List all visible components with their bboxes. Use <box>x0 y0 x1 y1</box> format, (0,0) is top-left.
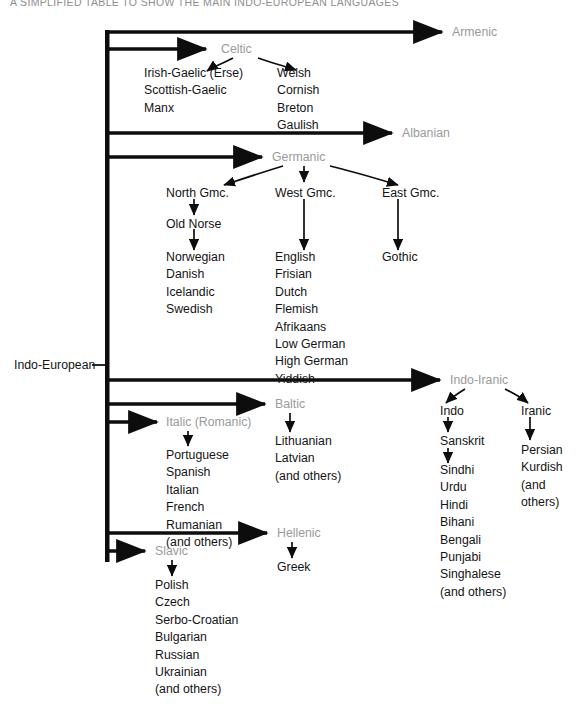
list-item: English <box>275 249 348 266</box>
branch-label-albanian: Albanian <box>402 126 450 140</box>
branch-label-germanic: Germanic <box>272 150 325 164</box>
branch-label-celtic: Celtic <box>221 42 252 56</box>
list-item: Afrikaans <box>275 319 348 336</box>
branch-label-hellenic: Hellenic <box>277 526 321 540</box>
branch-label-indo-iranic: Indo-Iranic <box>450 373 508 387</box>
list-item: Italian <box>166 482 232 499</box>
list-item: Kurdish <box>521 459 563 476</box>
baltic-list: Lithuanian Latvian (and others) <box>275 433 341 485</box>
list-item: (and others) <box>440 584 506 601</box>
list-item: (and others) <box>155 681 238 698</box>
list-item: Urdu <box>440 479 506 496</box>
branch-label-italic: Italic (Romanic) <box>166 415 251 429</box>
list-item: Czech <box>155 594 238 611</box>
list-item: Yiddish <box>275 371 348 388</box>
list-item: Danish <box>166 266 225 283</box>
branch-label-baltic: Baltic <box>275 397 305 411</box>
list-item: Polish <box>155 577 238 594</box>
west-germanic-list: English Frisian Dutch Flemish Afrikaans … <box>275 249 348 388</box>
north-germanic-list: Norwegian Danish Icelandic Swedish <box>166 249 225 319</box>
iranic-list: Persian Kurdish (and others) <box>521 442 563 512</box>
page-title: A SIMPLIFIED TABLE TO SHOW THE MAIN INDO… <box>10 0 399 8</box>
celtic-right-group: Welsh Cornish Breton Gaulish <box>277 65 319 135</box>
list-item: Dutch <box>275 284 348 301</box>
list-item: (and others) <box>275 468 341 485</box>
list-item: Welsh <box>277 65 319 82</box>
list-item: Serbo-Croatian <box>155 612 238 629</box>
list-item: Bengali <box>440 532 506 549</box>
list-item: Hindi <box>440 497 506 514</box>
list-item: Persian <box>521 442 563 459</box>
node-west-germanic: West Gmc. <box>275 186 336 200</box>
language-family-diagram: A SIMPLIFIED TABLE TO SHOW THE MAIN INDO… <box>0 0 584 709</box>
list-item: Ukrainian <box>155 664 238 681</box>
list-item: Greek <box>277 559 311 576</box>
list-item: Flemish <box>275 301 348 318</box>
list-item: High German <box>275 353 348 370</box>
list-item: Low German <box>275 336 348 353</box>
list-item: (and <box>521 477 563 494</box>
list-item: French <box>166 499 232 516</box>
list-item: Spanish <box>166 464 232 481</box>
list-item: Norwegian <box>166 249 225 266</box>
node-east-germanic: East Gmc. <box>382 186 439 200</box>
root-label: Indo-European <box>14 358 95 372</box>
list-item: Bihani <box>440 514 506 531</box>
list-item: Cornish <box>277 82 319 99</box>
list-item: Gothic <box>382 249 418 266</box>
list-item: Irish-Gaelic (Erse) <box>144 65 243 82</box>
list-item: Icelandic <box>166 284 225 301</box>
list-item: Gaulish <box>277 117 319 134</box>
list-item: Scottish-Gaelic <box>144 82 243 99</box>
hellenic-list: Greek <box>277 559 311 576</box>
node-old-norse: Old Norse <box>166 217 221 231</box>
list-item: Swedish <box>166 301 225 318</box>
list-item: Frisian <box>275 266 348 283</box>
list-item: Rumanian <box>166 517 232 534</box>
node-indo: Indo <box>440 404 464 418</box>
list-item: others) <box>521 494 563 511</box>
list-item: Manx <box>144 100 243 117</box>
node-iranic: Iranic <box>521 404 551 418</box>
node-sanskrit: Sanskrit <box>440 434 484 448</box>
list-item: Portuguese <box>166 447 232 464</box>
east-germanic-list: Gothic <box>382 249 418 266</box>
node-north-germanic: North Gmc. <box>166 186 229 200</box>
list-item: Lithuanian <box>275 433 341 450</box>
celtic-left-group: Irish-Gaelic (Erse) Scottish-Gaelic Manx <box>144 65 243 117</box>
branch-label-armenic: Armenic <box>452 25 497 39</box>
list-item: Latvian <box>275 450 341 467</box>
slavic-list: Polish Czech Serbo-Croatian Bulgarian Ru… <box>155 577 238 699</box>
list-item: Punjabi <box>440 549 506 566</box>
branch-label-slavic: Slavic <box>155 544 188 558</box>
italic-list: Portuguese Spanish Italian French Rumani… <box>166 447 232 551</box>
list-item: Russian <box>155 647 238 664</box>
indo-list: Sindhi Urdu Hindi Bihani Bengali Punjabi… <box>440 462 506 601</box>
list-item: Singhalese <box>440 566 506 583</box>
list-item: Breton <box>277 100 319 117</box>
list-item: Sindhi <box>440 462 506 479</box>
list-item: Bulgarian <box>155 629 238 646</box>
